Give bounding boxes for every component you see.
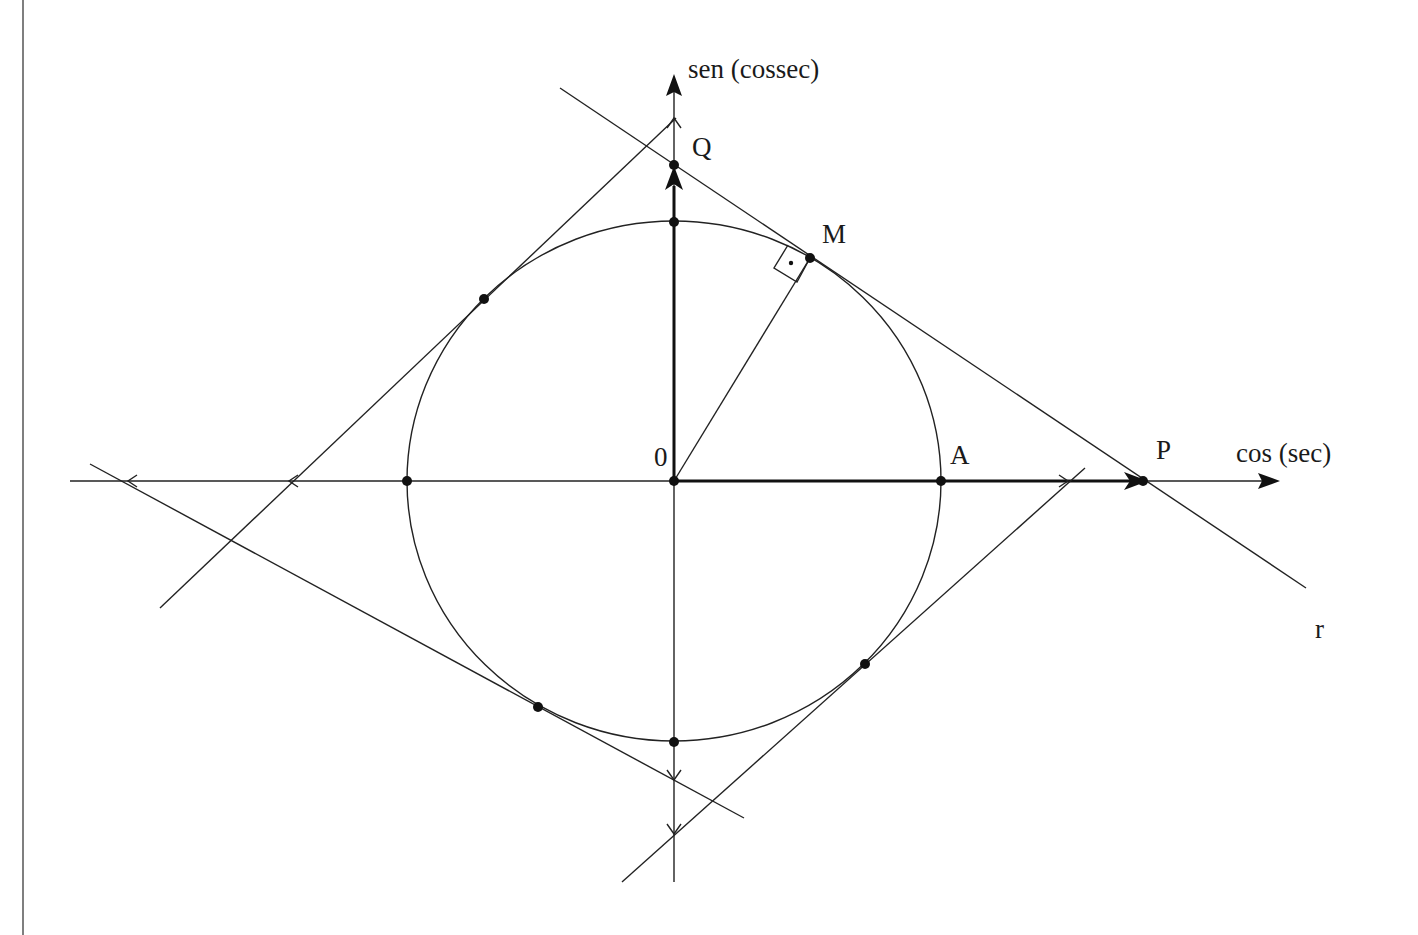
label-origin: 0 xyxy=(654,442,668,472)
point-circle-left xyxy=(402,476,412,486)
sen-axis-label: sen (cossec) xyxy=(688,54,819,84)
point-m xyxy=(805,253,815,263)
radius-om xyxy=(674,258,810,481)
label-q: Q xyxy=(692,132,712,162)
tangent-line-upper-left xyxy=(160,118,676,608)
point-origin xyxy=(669,476,679,486)
point-circle-bottom xyxy=(669,737,679,747)
label-r: r xyxy=(1315,614,1324,644)
point-q xyxy=(669,160,679,170)
point-a xyxy=(936,476,946,486)
point-tangent-upper-left xyxy=(479,294,489,304)
point-circle-top xyxy=(669,217,679,227)
tangent-line-lower-right xyxy=(622,468,1085,882)
label-a: A xyxy=(950,440,970,470)
trig-circle-diagram: sen (cossec) cos (sec) Q M 0 A P r xyxy=(0,0,1418,935)
label-m: M xyxy=(822,219,846,249)
tangent-line-lower-left xyxy=(90,464,744,818)
point-p xyxy=(1138,476,1148,486)
point-tangent-lower-right xyxy=(860,659,870,669)
diagram-points xyxy=(402,160,1148,747)
cos-axis-label: cos (sec) xyxy=(1236,438,1331,468)
label-p: P xyxy=(1156,435,1171,465)
point-tangent-lower-left xyxy=(533,702,543,712)
intersection-tick-marks xyxy=(128,118,1068,834)
right-angle-marker xyxy=(774,245,810,282)
